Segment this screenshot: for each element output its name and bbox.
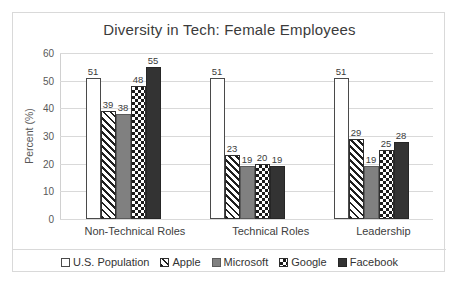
legend-item-microsoft[interactable]: Microsoft [212,256,269,268]
bar[interactable]: 19 [364,166,379,219]
bar[interactable]: 20 [255,164,270,219]
bar-slot: 39 [101,53,116,219]
bar-slot: 29 [349,53,364,219]
chart-title: Diversity in Tech: Female Employees [13,21,446,38]
bar-value-label: 48 [133,74,144,85]
bar[interactable]: 19 [270,166,285,219]
bar-slot: 25 [379,53,394,219]
y-tick-label: 10 [43,186,54,197]
legend-label: Apple [172,256,200,268]
bar-slot: 28 [394,53,409,219]
x-axis-category-label: Leadership [356,225,410,237]
legend-swatch [279,258,288,267]
bar-value-label: 28 [396,130,407,141]
bar-slot: 23 [225,53,240,219]
y-tick-label: 20 [43,158,54,169]
legend-label: Google [291,256,326,268]
bar[interactable]: 48 [131,86,146,219]
bar[interactable]: 29 [349,139,364,219]
legend-item-apple[interactable]: Apple [160,256,200,268]
legend-swatch [338,258,347,267]
legend-label: U.S. Population [73,256,149,268]
x-axis-labels: Non-Technical RolesTechnical RolesLeader… [61,225,434,237]
bar-value-label: 51 [336,66,347,77]
bar-value-label: 51 [88,66,99,77]
bar-group: 5123192019 [210,53,285,219]
plot-area: 0102030405060 51393848555123192019512919… [60,53,433,219]
bar-value-label: 38 [118,102,129,113]
legend-item-google[interactable]: Google [279,256,326,268]
legend-label: Microsoft [224,256,269,268]
bar-slot: 38 [116,53,131,219]
bar-slot: 51 [210,53,225,219]
bar[interactable]: 23 [225,155,240,219]
bar[interactable]: 51 [86,78,101,219]
bar-value-label: 23 [227,143,238,154]
bar-value-label: 51 [212,66,223,77]
legend-item-u-s-population[interactable]: U.S. Population [61,256,149,268]
y-axis-title: Percent (%) [23,108,35,163]
bar-value-label: 25 [381,138,392,149]
bar[interactable]: 19 [240,166,255,219]
bar-slot: 19 [240,53,255,219]
bar-slot: 19 [270,53,285,219]
bar[interactable]: 38 [116,114,131,219]
y-tick-label: 30 [43,131,54,142]
bar-value-label: 20 [257,152,268,163]
chart-legend: U.S. PopulationAppleMicrosoftGoogleFaceb… [13,249,446,268]
y-tick-label: 50 [43,75,54,86]
bar-slot: 48 [131,53,146,219]
y-tick-label: 40 [43,103,54,114]
legend-swatch [212,258,221,267]
bar-slot: 20 [255,53,270,219]
bar[interactable]: 39 [101,111,116,219]
bar[interactable]: 51 [210,78,225,219]
bar-slot: 51 [334,53,349,219]
bar-value-label: 55 [148,55,159,66]
bar-value-label: 29 [351,127,362,138]
bar-value-label: 39 [103,99,114,110]
legend-label: Facebook [350,256,398,268]
bar[interactable]: 55 [146,67,161,219]
legend-item-facebook[interactable]: Facebook [338,256,398,268]
bar-slot: 55 [146,53,161,219]
bar[interactable]: 28 [394,142,409,219]
bar-group: 5139384855 [86,53,161,219]
gridline-0: 0 [60,219,433,220]
bar-slot: 19 [364,53,379,219]
bar[interactable]: 25 [379,150,394,219]
bar-value-label: 19 [272,154,283,165]
legend-swatch [160,258,169,267]
bar-value-label: 19 [242,154,253,165]
bar[interactable]: 51 [334,78,349,219]
y-tick-label: 60 [43,48,54,59]
bar-slot: 51 [86,53,101,219]
y-tick-label: 0 [48,214,54,225]
x-axis-category-label: Technical Roles [232,225,309,237]
bar-groups: 513938485551231920195129192528 [61,53,433,219]
legend-swatch [61,258,70,267]
bar-value-label: 19 [366,154,377,165]
chart-container: Diversity in Tech: Female Employees Perc… [12,12,445,272]
bar-group: 5129192528 [334,53,409,219]
x-axis-category-label: Non-Technical Roles [84,225,185,237]
